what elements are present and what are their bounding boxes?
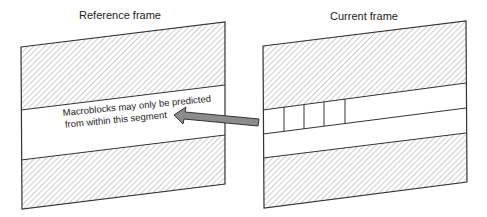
current-frame-title: Current frame bbox=[330, 10, 398, 22]
reference-frame: Reference frame Macroblocks may only be … bbox=[21, 9, 225, 209]
reference-frame-title: Reference frame bbox=[79, 9, 161, 21]
slice-prediction-diagram: Reference frame Macroblocks may only be … bbox=[0, 0, 487, 217]
current-frame: Current frame bbox=[263, 10, 467, 208]
